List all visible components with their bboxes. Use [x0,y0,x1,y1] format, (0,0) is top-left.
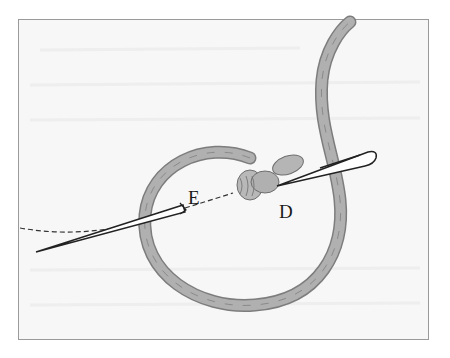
label-point-d: D [279,202,293,221]
needle-point [36,203,186,252]
label-point-e: E [188,188,200,207]
background-texture [30,48,420,305]
thread-loop [145,22,350,305]
stitch-illustration [0,0,450,358]
